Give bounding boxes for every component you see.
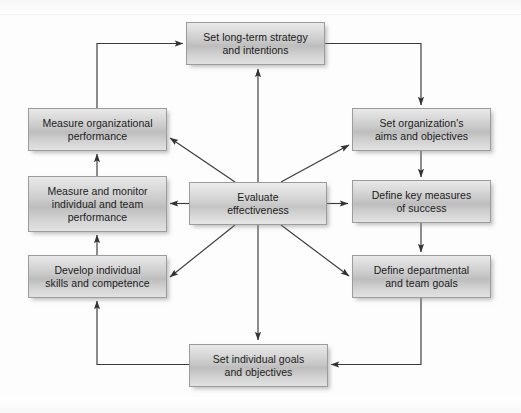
node-label: Set long-term strategy and intentions xyxy=(203,31,307,57)
node-label: Measure organizational performance xyxy=(42,117,152,143)
spoke-center-to-develop-skills xyxy=(170,225,235,277)
node-label: Define departmental and team goals xyxy=(374,264,470,290)
connector-measure-organizational-to-strategy xyxy=(97,44,183,109)
node-label: Evaluate effectiveness xyxy=(227,191,289,217)
node-measure-organizational-performance[interactable]: Measure organizational performance xyxy=(28,108,167,151)
node-set-long-term-strategy[interactable]: Set long-term strategy and intentions xyxy=(186,22,325,65)
node-set-individual-goals[interactable]: Set individual goals and objectives xyxy=(189,344,328,387)
node-define-key-measures[interactable]: Define key measures of success xyxy=(352,180,491,223)
spoke-center-to-departmental xyxy=(281,225,349,276)
node-label: Define key measures of success xyxy=(372,189,472,215)
connector-individual-goals-to-develop-skills xyxy=(97,301,189,365)
node-label: Develop individual skills and competence xyxy=(45,264,149,290)
spoke-center-to-measure-organizational xyxy=(170,138,235,182)
connector-strategy-to-aims xyxy=(325,44,421,106)
spoke-center-to-aims xyxy=(281,145,349,182)
node-label: Set individual goals and objectives xyxy=(213,353,304,379)
node-label: Set organization's aims and objectives xyxy=(375,117,468,143)
node-evaluate-effectiveness[interactable]: Evaluate effectiveness xyxy=(189,182,327,225)
node-define-departmental-goals[interactable]: Define departmental and team goals xyxy=(352,255,491,298)
node-measure-monitor-individual-team[interactable]: Measure and monitor individual and team … xyxy=(28,176,167,232)
node-develop-individual-skills[interactable]: Develop individual skills and competence xyxy=(28,255,167,298)
node-set-organizations-aims[interactable]: Set organization's aims and objectives xyxy=(352,108,491,151)
node-label: Measure and monitor individual and team … xyxy=(47,185,147,224)
performance-management-cycle-diagram: Set long-term strategy and intentions Se… xyxy=(0,0,521,413)
connector-departmental-to-individual-goals xyxy=(331,298,421,365)
